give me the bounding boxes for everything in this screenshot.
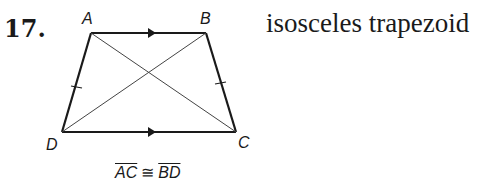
trapezoid-figure (0, 0, 486, 184)
congruence-caption: AC≅BD (115, 163, 180, 182)
vertex-label-d: D (46, 136, 58, 154)
diagonal-bd (62, 33, 206, 132)
vertex-label-b: B (200, 10, 211, 28)
segment-ac: AC (115, 164, 137, 181)
parallel-arrow-icon (148, 127, 156, 137)
diagonal-ac (91, 33, 236, 132)
vertex-label-c: C (238, 134, 250, 152)
segment-bd: BD (158, 164, 180, 181)
parallel-arrow-icon (148, 28, 156, 38)
vertex-label-a: A (82, 10, 93, 28)
side-da (62, 33, 91, 132)
congruent-symbol: ≅ (137, 164, 158, 181)
